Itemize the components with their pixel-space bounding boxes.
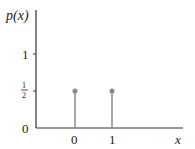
y-tick-label-1: 1 xyxy=(22,47,29,62)
y-tick-label-half-num: 1 xyxy=(22,81,26,90)
x-tick-label-0: 0 xyxy=(71,132,78,147)
x-axis-label: x xyxy=(174,132,181,147)
stem-marker-0 xyxy=(73,89,78,94)
y-tick-label-0: 0 xyxy=(22,121,29,136)
stem-marker-1 xyxy=(110,89,115,94)
pmf-chart: p(x) 1 1 2 0 0 1 x xyxy=(0,0,195,149)
y-tick-label-half-den: 2 xyxy=(22,91,26,100)
x-tick-label-1: 1 xyxy=(109,132,116,147)
y-axis-label: p(x) xyxy=(5,8,29,24)
